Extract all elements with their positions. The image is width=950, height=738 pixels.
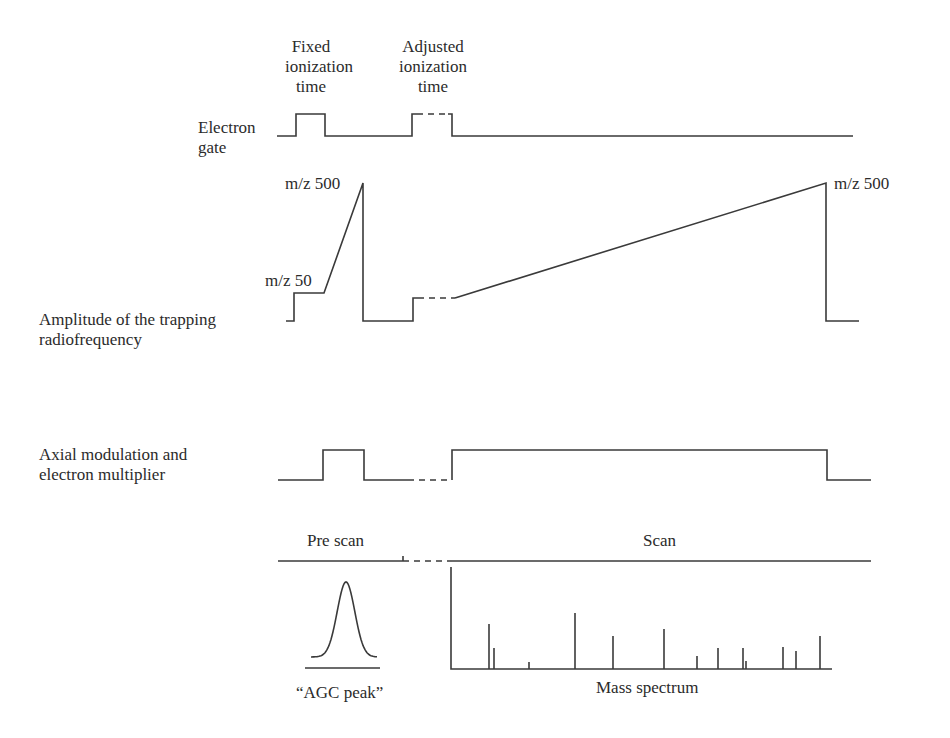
waveform-segment <box>452 450 871 480</box>
waveform-segment <box>277 114 417 136</box>
label-line: Electron <box>198 118 256 138</box>
waveform-segment <box>286 183 418 321</box>
mass-spectrum-plot <box>451 567 832 669</box>
rf-amplitude-waveform <box>286 183 859 321</box>
label-line: Axial modulation and <box>39 445 187 465</box>
axial-modulation-label: Axial modulation and electron multiplier <box>39 445 187 485</box>
waveform-segment <box>278 450 408 480</box>
agc-peak-label: “AGC peak” <box>296 683 383 703</box>
adjusted-ionization-label: Adjusted ionization time <box>397 37 469 97</box>
fixed-ionization-label: Fixed ionization time <box>285 37 337 97</box>
mz-500-scan-label: m/z 500 <box>834 174 889 194</box>
scan-label: Scan <box>643 531 676 551</box>
mz-500-prescan-label: m/z 500 <box>285 174 340 194</box>
agc-peak-curve <box>305 582 380 668</box>
label-line: time <box>397 77 469 97</box>
label-line: ionization <box>285 57 337 77</box>
timing-diagram <box>0 0 950 738</box>
mass-spectrum-label: Mass spectrum <box>596 678 698 698</box>
label-line: electron multiplier <box>39 465 187 485</box>
waveform-segment <box>448 114 853 136</box>
waveform-segment <box>455 183 859 321</box>
label-line: Fixed <box>285 37 337 57</box>
mz-50-label: m/z 50 <box>265 271 312 291</box>
axial-modulation-waveform <box>278 450 871 480</box>
label-line: time <box>285 77 337 97</box>
label-line: ionization <box>397 57 469 77</box>
pre-scan-label: Pre scan <box>307 531 364 551</box>
electron-gate-label: Electron gate <box>198 118 256 158</box>
gaussian-curve <box>311 582 377 657</box>
scan-timeline <box>278 556 871 561</box>
rf-amplitude-label: Amplitude of the trapping radiofrequency <box>39 310 216 350</box>
spectrum-axes <box>451 567 832 669</box>
label-line: Adjusted <box>397 37 469 57</box>
label-line: gate <box>198 138 256 158</box>
label-line: Amplitude of the trapping <box>39 310 216 330</box>
label-line: radiofrequency <box>39 330 216 350</box>
electron-gate-waveform <box>277 114 853 136</box>
